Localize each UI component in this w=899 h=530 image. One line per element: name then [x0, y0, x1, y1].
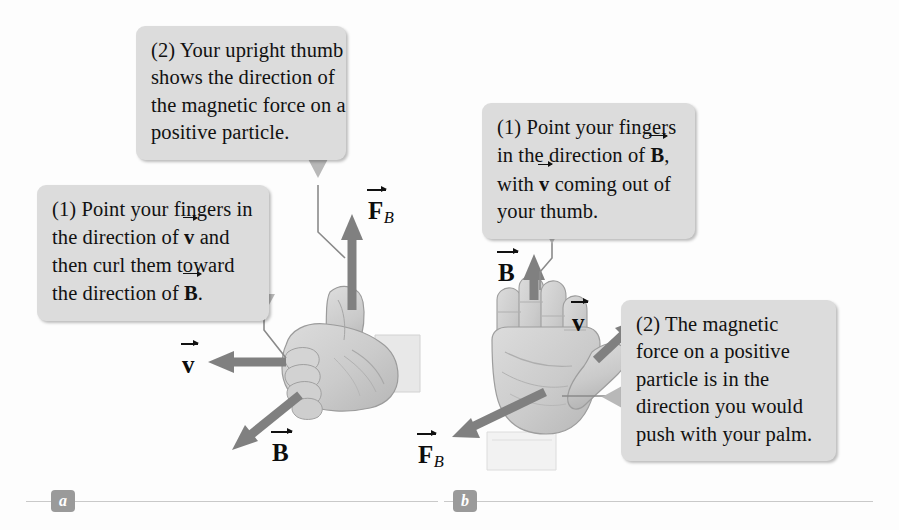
callout-line: with v coming out of: [497, 170, 680, 198]
vector-label-velocity-b: v: [572, 308, 585, 337]
magnetic-force-right-hand-rule-figure: (2) Your upright thumb shows the directi…: [0, 0, 899, 530]
callout-line: direction you would: [636, 393, 821, 420]
callout-a-step2: (2) Your upright thumb shows the directi…: [136, 26, 346, 160]
panel-b-rule-left: [444, 501, 453, 502]
callout-line: your thumb.: [497, 198, 680, 225]
vector-subscript: B: [384, 208, 394, 227]
vector-symbol-B: B: [498, 258, 515, 287]
vector-symbol-F: F: [418, 440, 433, 469]
callout-line: (1) Point your fingers in: [52, 196, 254, 223]
callout-line: particle is in the: [636, 366, 821, 393]
panel-label-b: b: [453, 490, 477, 512]
callout-line: (2) Your upright thumb: [151, 37, 331, 64]
vector-b-inline: B: [650, 141, 664, 169]
callout-b-step2: (2) The magnetic force on a positive par…: [621, 300, 836, 461]
fist-hand-shape: [282, 287, 420, 420]
callout-line: force on a positive: [636, 338, 821, 365]
panel-label-a: a: [51, 490, 75, 512]
vector-symbol-v: v: [182, 350, 195, 379]
vector-v-inline: v: [184, 223, 194, 251]
vector-label-field-a: B: [272, 438, 289, 467]
callout-b-step1: (1) Point your fingers in the direction …: [482, 103, 695, 239]
callout-line: in the direction of B,: [497, 141, 680, 169]
callout-line: the magnetic force on a: [151, 92, 331, 119]
vector-symbol-v: v: [572, 308, 585, 337]
callout-line: the direction of B.: [52, 279, 254, 307]
vector-v-inline: v: [539, 170, 549, 198]
leader-line-a-step2: [318, 185, 345, 258]
panel-a-rule-left: [26, 501, 51, 502]
vector-subscript: B: [434, 452, 444, 471]
callout-line: push with your palm.: [636, 421, 821, 448]
callout-line: shows the direction of: [151, 64, 331, 91]
callout-line: then curl them toward: [52, 252, 254, 279]
callout-line: (2) The magnetic: [636, 311, 821, 338]
vector-symbol-F: F: [368, 196, 383, 225]
open-palm-hand-shape: [487, 276, 627, 470]
arrow-field-b: [523, 254, 545, 300]
callout-a-step1: (1) Point your fingers in the direction …: [37, 185, 269, 321]
vector-b-inline: B: [184, 279, 198, 307]
vector-label-velocity-a: v: [182, 350, 195, 379]
vector-label-force-a: FB: [368, 196, 394, 228]
vector-label-force-b: FB: [418, 440, 444, 472]
vector-symbol-B: B: [272, 438, 289, 467]
arrow-force-b: [452, 392, 545, 438]
callout-line: the direction of v and: [52, 223, 254, 251]
panel-b-rule-right: [477, 501, 873, 502]
panel-a-rule-right: [75, 501, 438, 502]
arrow-velocity-a: [208, 351, 286, 373]
arrow-force-a: [341, 214, 363, 310]
callout-line: (1) Point your fingers: [497, 114, 680, 141]
callout-tail-b-step2: [602, 386, 622, 408]
callout-line: positive particle.: [151, 119, 331, 146]
vector-label-field-b: B: [498, 258, 515, 287]
arrow-field-a: [232, 395, 300, 450]
